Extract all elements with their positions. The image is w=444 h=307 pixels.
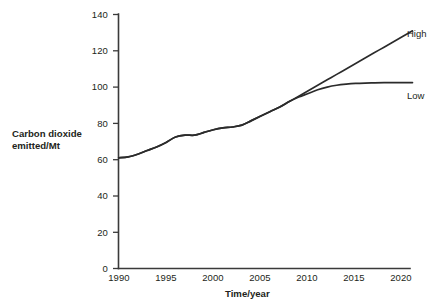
y-tick-label-80: 80: [84, 118, 108, 129]
series-line-low: [119, 83, 413, 158]
series-label-low: Low: [407, 90, 424, 101]
x-tick-label-2010: 2010: [289, 272, 325, 283]
y-tick-label-120: 120: [84, 45, 108, 56]
y-axis-title-line2: emitted/Mt: [12, 140, 60, 151]
x-tick-label-1990: 1990: [101, 272, 137, 283]
x-tick-label-2005: 2005: [242, 272, 278, 283]
y-tick-marks: [113, 15, 119, 269]
chart-plot-area: [0, 0, 444, 307]
x-axis-title: Time/year: [225, 288, 270, 300]
y-axis-title-line1: Carbon dioxide: [12, 128, 82, 139]
y-tick-label-40: 40: [84, 190, 108, 201]
y-tick-label-60: 60: [84, 154, 108, 165]
x-tick-label-2020: 2020: [383, 272, 419, 283]
y-tick-label-140: 140: [84, 9, 108, 20]
x-tick-label-2015: 2015: [336, 272, 372, 283]
x-tick-label-2000: 2000: [195, 272, 231, 283]
series-line-high: [119, 31, 413, 158]
x-tick-label-1995: 1995: [148, 272, 184, 283]
y-tick-label-100: 100: [84, 81, 108, 92]
y-tick-label-20: 20: [84, 227, 108, 238]
y-axis-title: Carbon dioxide emitted/Mt: [12, 128, 82, 153]
series-label-high: High: [407, 28, 427, 39]
chart-figure: 140 120 100 80 60 40 20 0 1990 1995 2000…: [0, 0, 444, 307]
